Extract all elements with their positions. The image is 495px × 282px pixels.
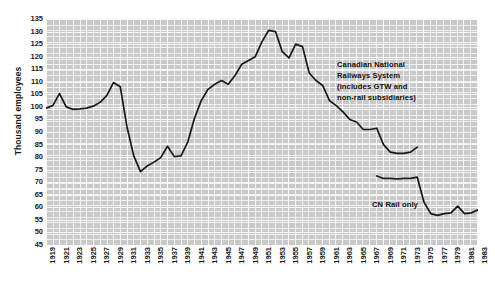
x-tick-label: 1983 bbox=[481, 247, 489, 264]
x-tick-label: 1935 bbox=[157, 247, 165, 264]
x-tick-label: 1945 bbox=[225, 247, 233, 264]
x-tick-label: 1955 bbox=[292, 247, 300, 264]
x-tick-label: 1943 bbox=[211, 247, 219, 264]
x-tick-label: 1977 bbox=[441, 247, 449, 264]
y-tick-label: 110 bbox=[31, 78, 43, 86]
x-tick-label: 1919 bbox=[49, 247, 57, 264]
x-tick-label: 1961 bbox=[333, 247, 341, 264]
y-tick-label: 70 bbox=[35, 178, 43, 186]
x-axis-tick-labels: 1919192119231925192719291931193319351937… bbox=[0, 245, 495, 282]
x-tick-label: 1921 bbox=[63, 247, 71, 264]
x-tick-label: 1925 bbox=[90, 247, 98, 264]
y-tick-label: 115 bbox=[31, 65, 43, 73]
y-axis-tick-labels: 1351301251201151101051009590858075706560… bbox=[0, 0, 46, 282]
x-tick-label: 1923 bbox=[76, 247, 84, 264]
x-tick-label: 1963 bbox=[346, 247, 354, 264]
y-tick-label: 55 bbox=[35, 216, 43, 224]
y-tick-label: 90 bbox=[35, 128, 43, 136]
x-tick-label: 1959 bbox=[319, 247, 327, 264]
x-tick-label: 1957 bbox=[306, 247, 314, 264]
y-tick-label: 100 bbox=[30, 103, 43, 111]
annotation-cn-rail-only: CN Rail only bbox=[372, 199, 418, 210]
x-tick-label: 1965 bbox=[360, 247, 368, 264]
x-tick-label: 1939 bbox=[184, 247, 192, 264]
x-tick-label: 1947 bbox=[238, 247, 246, 264]
y-tick-label: 125 bbox=[30, 40, 43, 48]
y-tick-label: 105 bbox=[30, 91, 43, 99]
x-tick-label: 1941 bbox=[198, 247, 206, 264]
x-tick-label: 1973 bbox=[414, 247, 422, 264]
x-tick-label: 1967 bbox=[373, 247, 381, 264]
x-tick-label: 1929 bbox=[117, 247, 125, 264]
y-tick-label: 75 bbox=[35, 166, 43, 174]
x-tick-label: 1981 bbox=[468, 247, 476, 264]
y-tick-label: 80 bbox=[35, 153, 43, 161]
y-tick-label: 130 bbox=[30, 28, 43, 36]
x-tick-label: 1979 bbox=[454, 247, 462, 264]
data-series-layer bbox=[46, 19, 478, 245]
y-tick-label: 135 bbox=[30, 15, 43, 23]
x-tick-label: 1937 bbox=[171, 247, 179, 264]
x-tick-label: 1975 bbox=[427, 247, 435, 264]
employment-line-chart: Thousand employees 135130125120115110105… bbox=[0, 0, 495, 282]
y-tick-label: 120 bbox=[30, 53, 43, 61]
x-tick-label: 1953 bbox=[279, 247, 287, 264]
y-tick-label: 65 bbox=[35, 191, 43, 199]
plot-area bbox=[46, 19, 478, 245]
y-tick-label: 50 bbox=[35, 229, 43, 237]
x-tick-label: 1969 bbox=[387, 247, 395, 264]
x-tick-label: 1971 bbox=[400, 247, 408, 264]
x-tick-label: 1933 bbox=[144, 247, 152, 264]
y-tick-label: 60 bbox=[35, 204, 43, 212]
x-tick-label: 1951 bbox=[265, 247, 273, 264]
x-tick-label: 1931 bbox=[130, 247, 138, 264]
x-tick-label: 1949 bbox=[252, 247, 260, 264]
y-tick-label: 95 bbox=[35, 116, 43, 124]
x-tick-label: 1927 bbox=[103, 247, 111, 264]
y-tick-label: 85 bbox=[35, 141, 43, 149]
annotation-cn-railways-system: Canadian National Railways System (inclu… bbox=[337, 59, 416, 103]
